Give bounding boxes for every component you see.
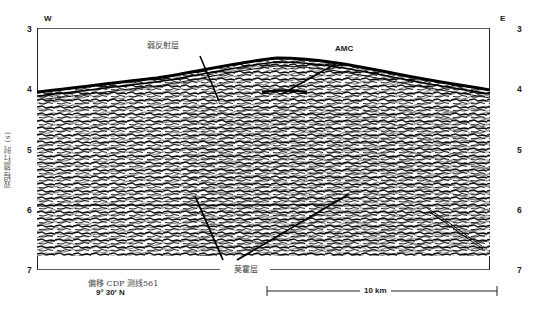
y-tick-right-6: 6 bbox=[517, 205, 522, 215]
annotation-moho-layer: 莫霍层 bbox=[232, 263, 260, 274]
seismic-section bbox=[37, 28, 490, 270]
y-tick-left-7: 7 bbox=[27, 265, 32, 275]
east-direction-label: E bbox=[500, 14, 505, 23]
y-tick-left-4: 4 bbox=[27, 84, 32, 94]
y-tick-left-5: 5 bbox=[27, 145, 32, 155]
annotation-weak-reflection-layer: 弱反射层 bbox=[146, 39, 180, 50]
y-tick-right-5: 5 bbox=[517, 145, 522, 155]
y-tick-left-3: 3 bbox=[27, 24, 32, 34]
profile-caption: 偏移 CDP 测线561 bbox=[88, 277, 158, 288]
seismic-reflection-image bbox=[37, 28, 490, 270]
scale-bar-label: 10 km bbox=[360, 286, 391, 295]
y-tick-right-7: 7 bbox=[517, 265, 522, 275]
west-direction-label: W bbox=[44, 14, 52, 23]
y-tick-right-3: 3 bbox=[517, 24, 522, 34]
y-tick-right-4: 4 bbox=[517, 84, 522, 94]
annotation-amc: AMC bbox=[335, 44, 353, 53]
y-axis-label: 双程旅行时 (s) bbox=[2, 88, 16, 188]
latitude-caption: 9° 30′ N bbox=[96, 288, 125, 297]
y-tick-left-6: 6 bbox=[27, 205, 32, 215]
